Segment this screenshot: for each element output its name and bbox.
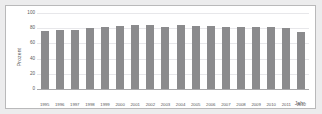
- x-tick-slot: 1998: [82, 92, 97, 110]
- bar[interactable]: [86, 28, 94, 89]
- x-axis-tick-label: 2009: [251, 102, 260, 107]
- bar-slot: [52, 13, 67, 89]
- bar[interactable]: [101, 27, 109, 89]
- x-axis-tick-label: 1995: [40, 102, 49, 107]
- x-tick-slot: 2008: [233, 92, 248, 110]
- x-axis-title: Jahr: [295, 100, 305, 106]
- y-axis-tick-label: 60: [30, 41, 35, 46]
- bar-slot: [203, 13, 218, 89]
- x-axis-tick-label: 2000: [115, 102, 124, 107]
- x-tick-slot: 2009: [249, 92, 264, 110]
- y-axis-tick-label: 20: [30, 72, 35, 77]
- bar[interactable]: [146, 25, 154, 89]
- x-tick-slot: 2011: [279, 92, 294, 110]
- bar[interactable]: [237, 27, 245, 89]
- x-tick-slot: 2000: [113, 92, 128, 110]
- bar-slot: [82, 13, 97, 89]
- bar[interactable]: [177, 25, 185, 89]
- bar[interactable]: [116, 26, 124, 89]
- x-axis-tick-label: 2003: [161, 102, 170, 107]
- bar[interactable]: [297, 32, 305, 89]
- x-axis-tick-label: 1996: [55, 102, 64, 107]
- x-tick-slot: 1997: [67, 92, 82, 110]
- bar-series: [37, 13, 309, 89]
- x-tick-slot: 2001: [128, 92, 143, 110]
- bar-slot: [97, 13, 112, 89]
- x-tick-slot: 2004: [173, 92, 188, 110]
- bar-slot: [233, 13, 248, 89]
- bar-slot: [294, 13, 309, 89]
- bar[interactable]: [267, 27, 275, 89]
- x-axis-tick-label: 2002: [146, 102, 155, 107]
- bar[interactable]: [41, 31, 49, 89]
- bar[interactable]: [222, 27, 230, 89]
- bar[interactable]: [282, 28, 290, 89]
- chart-frame: Prozent 020406080100 1995199619971998199…: [5, 5, 316, 109]
- bar-slot: [67, 13, 82, 89]
- x-axis-tick-label: 2004: [176, 102, 185, 107]
- bar-slot: [173, 13, 188, 89]
- bar[interactable]: [161, 27, 169, 89]
- y-axis-tick-label: 0: [32, 87, 35, 92]
- y-axis-tick-label: 80: [30, 26, 35, 31]
- x-axis-tick-label: 2008: [236, 102, 245, 107]
- plot-area: [37, 13, 309, 89]
- bar-slot: [264, 13, 279, 89]
- bar-slot: [37, 13, 52, 89]
- y-axis-tick-label: 40: [30, 56, 35, 61]
- x-tick-slot: 2005: [188, 92, 203, 110]
- x-tick-slot: 2006: [203, 92, 218, 110]
- bar-slot: [218, 13, 233, 89]
- x-tick-slot: 1996: [52, 92, 67, 110]
- plot-wrapper: Prozent 020406080100 1995199619971998199…: [6, 6, 315, 108]
- y-axis-tick-labels: 020406080100: [22, 13, 35, 89]
- x-tick-slot: 2003: [158, 92, 173, 110]
- x-axis-tick-label: 1998: [85, 102, 94, 107]
- x-axis-tick-label: 1997: [70, 102, 79, 107]
- bar-slot: [143, 13, 158, 89]
- bar[interactable]: [252, 27, 260, 89]
- x-axis-tick-label: 2001: [131, 102, 140, 107]
- bar[interactable]: [207, 26, 215, 89]
- bar-slot: [188, 13, 203, 89]
- bar[interactable]: [56, 30, 64, 89]
- bar[interactable]: [192, 26, 200, 89]
- x-axis-tick-label: 2005: [191, 102, 200, 107]
- bar-slot: [279, 13, 294, 89]
- x-axis-tick-label: 2011: [282, 102, 291, 107]
- bar-slot: [113, 13, 128, 89]
- x-axis-tick-label: 1999: [100, 102, 109, 107]
- x-axis-tick-label: 2007: [221, 102, 230, 107]
- y-axis-tick-label: 100: [27, 11, 35, 16]
- bar[interactable]: [131, 25, 139, 89]
- bar-slot: [158, 13, 173, 89]
- x-tick-slot: 2007: [218, 92, 233, 110]
- figure-root: Prozent 020406080100 1995199619971998199…: [0, 0, 322, 114]
- bar[interactable]: [71, 30, 79, 89]
- x-axis-tick-label: 2010: [267, 102, 276, 107]
- x-axis-tick-label: 2006: [206, 102, 215, 107]
- x-axis-tick-labels: 1995199619971998199920002001200220032004…: [37, 92, 309, 110]
- bar-slot: [249, 13, 264, 89]
- x-tick-slot: 1995: [37, 92, 52, 110]
- axis-baseline: [37, 89, 309, 90]
- x-tick-slot: 1999: [97, 92, 112, 110]
- x-tick-slot: 2010: [264, 92, 279, 110]
- bar-slot: [128, 13, 143, 89]
- x-tick-slot: 2002: [143, 92, 158, 110]
